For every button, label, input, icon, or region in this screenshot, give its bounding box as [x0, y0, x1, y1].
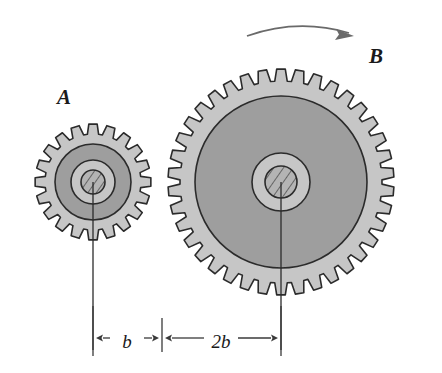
gear-a-label: A [55, 85, 71, 109]
gear-diagram-canvas: b2b A B [0, 0, 442, 373]
gear-b-label: B [368, 44, 383, 68]
dimension-label-b: b [122, 331, 132, 352]
gear-pair-figure: b2b A B [0, 0, 442, 373]
dimension-label-2b: 2b [212, 331, 231, 352]
